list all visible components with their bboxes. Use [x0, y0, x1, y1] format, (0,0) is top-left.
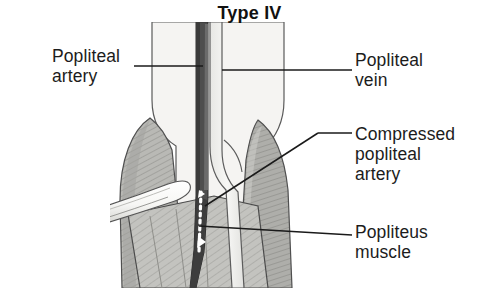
figure-canvas: Type IV Popliteal artery Popliteal vein …	[0, 0, 499, 288]
figure-title: Type IV	[0, 3, 499, 24]
label-popliteal-vein: Popliteal vein	[355, 50, 423, 90]
label-compressed-popliteal-artery: Compressed popliteal artery	[355, 124, 455, 184]
label-popliteal-artery: Popliteal artery	[52, 46, 120, 86]
label-popliteus-muscle: Popliteus muscle	[355, 222, 428, 262]
